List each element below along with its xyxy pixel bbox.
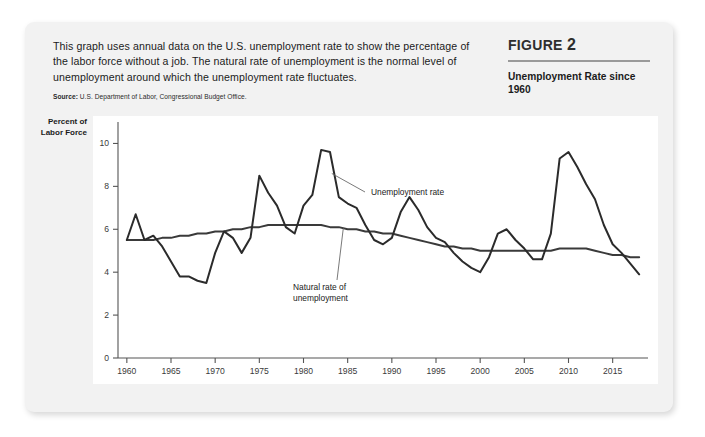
x-tick-label: 1965 — [161, 366, 180, 376]
y-tick-label: 2 — [104, 310, 109, 320]
series-unemployment-rate — [127, 150, 639, 283]
chart-plot-area: 0246810 19601965197019751980198519901995… — [93, 116, 658, 384]
source-label: Source: — [53, 93, 78, 100]
y-tick-label: 6 — [104, 224, 109, 234]
x-tick-label: 1985 — [338, 366, 357, 376]
y-axis-title-line-2: Labor Force — [35, 128, 87, 139]
description-line-1: This graph uses annual data on the U.S. … — [53, 39, 488, 54]
y-tick-labels: 0246810 — [99, 138, 109, 363]
figure-card: This graph uses annual data on the U.S. … — [25, 22, 673, 412]
natural-rate-label-line-2: unemployment — [293, 293, 349, 303]
axis-ticks — [113, 143, 613, 363]
source-note: Source: U.S. Department of Labor, Congre… — [53, 93, 488, 100]
x-tick-label: 1970 — [206, 366, 225, 376]
figure-subtitle: Unemployment Rate since 1960 — [508, 70, 658, 97]
description-line-2: the labor force without a job. The natur… — [53, 54, 488, 69]
x-tick-label: 2010 — [559, 366, 578, 376]
y-axis-title: Percent of Labor Force — [35, 117, 87, 138]
figure-divider — [508, 60, 650, 62]
series-natural-rate — [127, 225, 639, 257]
unemployment-rate-label: Unemployment rate — [371, 187, 444, 197]
description-line-3: unemployment around which the unemployme… — [53, 70, 488, 85]
natural-rate-leader-line — [337, 228, 343, 280]
x-tick-label: 1960 — [117, 366, 136, 376]
figure-number: 2 — [567, 36, 576, 53]
x-tick-label: 2005 — [515, 366, 534, 376]
page-root: This graph uses annual data on the U.S. … — [0, 0, 705, 437]
x-tick-label: 1975 — [250, 366, 269, 376]
line-chart: 0246810 19601965197019751980198519901995… — [93, 116, 658, 384]
source-text: U.S. Department of Labor, Congressional … — [80, 93, 247, 100]
description-block: This graph uses annual data on the U.S. … — [53, 39, 488, 100]
figure-label-word: FIGURE — [508, 37, 563, 53]
x-tick-label: 2015 — [603, 366, 622, 376]
figure-label: FIGURE 2 — [508, 36, 658, 54]
x-tick-label: 1980 — [294, 366, 313, 376]
y-tick-label: 0 — [104, 353, 109, 363]
x-tick-label: 2000 — [471, 366, 490, 376]
y-tick-label: 10 — [99, 138, 109, 148]
y-tick-label: 8 — [104, 181, 109, 191]
natural-rate-label-line-1: Natural rate of — [293, 282, 347, 292]
y-axis-title-line-1: Percent of — [35, 117, 87, 128]
y-tick-label: 4 — [104, 267, 109, 277]
figure-title-block: FIGURE 2 Unemployment Rate since 1960 — [508, 36, 658, 97]
x-tick-labels: 1960196519701975198019851990199520002005… — [117, 366, 622, 376]
x-tick-label: 1990 — [382, 366, 401, 376]
x-tick-label: 1995 — [426, 366, 445, 376]
